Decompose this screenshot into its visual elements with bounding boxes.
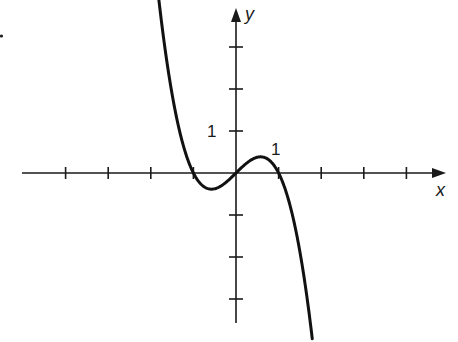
y-axis xyxy=(229,8,243,323)
cubic-function-graph: y x 1 1 xyxy=(0,0,458,342)
y-axis-label: y xyxy=(243,4,255,24)
y-tick-label-1: 1 xyxy=(207,122,216,141)
y-axis-arrow-icon xyxy=(231,8,241,22)
stray-mark xyxy=(0,34,3,37)
x-tick-label-1: 1 xyxy=(271,140,280,159)
x-axis-label: x xyxy=(435,180,446,200)
x-axis-arrow-icon xyxy=(432,168,446,178)
